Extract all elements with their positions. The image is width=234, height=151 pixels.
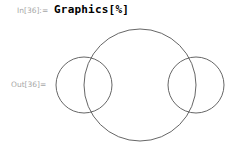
output-graphic[interactable]	[0, 0, 234, 151]
big-circle	[84, 29, 196, 141]
